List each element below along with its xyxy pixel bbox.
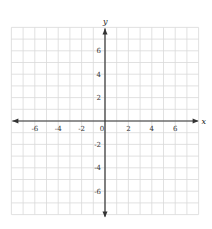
y-tick-label: 6 (97, 47, 102, 55)
y-tick-label: 4 (97, 71, 102, 79)
coordinate-plane: -6-4-20246-6-4-2246 x y (0, 0, 212, 229)
y-tick-label: 2 (97, 94, 101, 102)
y-axis-label: y (102, 17, 108, 26)
arrow-up-icon (103, 28, 108, 34)
axes (12, 28, 198, 217)
x-tick-label: -2 (78, 125, 85, 133)
y-tick-label: -4 (94, 164, 101, 172)
x-tick-label: -4 (55, 125, 62, 133)
x-tick-label: 2 (126, 125, 130, 133)
x-tick-label: 0 (100, 125, 104, 133)
y-tick-label: -6 (94, 188, 101, 196)
x-tick-label: -6 (31, 125, 38, 133)
y-tick-label: -2 (94, 141, 101, 149)
x-axis-label: x (202, 117, 207, 126)
x-tick-label: 6 (173, 125, 178, 133)
x-tick-label: 4 (150, 125, 155, 133)
arrow-right-icon (193, 119, 199, 124)
arrow-left-icon (12, 119, 18, 124)
